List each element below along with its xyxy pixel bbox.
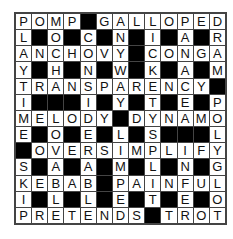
letter-cell[interactable]: L [81, 192, 96, 207]
letter-cell[interactable]: T [145, 192, 160, 207]
letter-cell[interactable]: A [113, 79, 128, 94]
letter-cell[interactable]: Y [97, 111, 112, 126]
letter-cell[interactable]: R [32, 208, 47, 223]
letter-cell[interactable]: A [178, 62, 193, 77]
letter-cell[interactable]: K [16, 176, 31, 191]
letter-cell[interactable]: C [145, 46, 160, 61]
letter-cell[interactable]: M [16, 111, 31, 126]
letter-cell[interactable]: E [81, 127, 96, 142]
letter-cell[interactable]: Y [194, 79, 209, 94]
letter-cell[interactable]: S [16, 159, 31, 174]
letter-cell[interactable]: L [210, 176, 225, 191]
letter-cell[interactable]: A [178, 30, 193, 45]
letter-cell[interactable]: I [178, 143, 193, 158]
letter-cell[interactable]: Y [210, 143, 225, 158]
letter-cell[interactable]: I [16, 192, 31, 207]
letter-cell[interactable]: R [81, 143, 96, 158]
letter-cell[interactable]: T [161, 208, 176, 223]
letter-cell[interactable]: I [145, 176, 160, 191]
letter-cell[interactable]: P [210, 95, 225, 110]
letter-cell[interactable]: E [178, 192, 193, 207]
letter-cell[interactable]: B [81, 176, 96, 191]
letter-cell[interactable]: N [161, 79, 176, 94]
letter-cell[interactable]: O [81, 46, 96, 61]
letter-cell[interactable]: C [81, 30, 96, 45]
letter-cell[interactable]: L [145, 14, 160, 29]
letter-cell[interactable]: N [161, 111, 176, 126]
letter-cell[interactable]: L [48, 111, 63, 126]
letter-cell[interactable]: W [113, 62, 128, 77]
letter-cell[interactable]: T [64, 208, 79, 223]
letter-cell[interactable]: P [145, 143, 160, 158]
letter-cell[interactable]: Y [113, 46, 128, 61]
letter-cell[interactable]: R [178, 208, 193, 223]
letter-cell[interactable]: O [32, 14, 47, 29]
letter-cell[interactable]: A [129, 176, 144, 191]
letter-cell[interactable]: A [48, 79, 63, 94]
letter-cell[interactable]: C [178, 79, 193, 94]
letter-cell[interactable]: A [64, 176, 79, 191]
letter-cell[interactable]: N [161, 176, 176, 191]
letter-cell[interactable]: O [210, 111, 225, 126]
letter-cell[interactable]: G [97, 14, 112, 29]
letter-cell[interactable]: N [178, 46, 193, 61]
letter-cell[interactable]: F [178, 176, 193, 191]
letter-cell[interactable]: E [145, 79, 160, 94]
letter-cell[interactable]: L [16, 30, 31, 45]
letter-cell[interactable]: L [48, 192, 63, 207]
letter-cell[interactable]: F [194, 143, 209, 158]
letter-cell[interactable]: I [81, 95, 96, 110]
letter-cell[interactable]: Y [145, 111, 160, 126]
letter-cell[interactable]: R [210, 30, 225, 45]
letter-cell[interactable]: N [113, 30, 128, 45]
letter-cell[interactable]: I [16, 95, 31, 110]
letter-cell[interactable]: T [145, 95, 160, 110]
letter-cell[interactable]: L [129, 14, 144, 29]
letter-cell[interactable]: S [97, 143, 112, 158]
letter-cell[interactable]: M [113, 159, 128, 174]
letter-cell[interactable]: A [113, 14, 128, 29]
letter-cell[interactable]: C [48, 46, 63, 61]
letter-cell[interactable]: M [129, 143, 144, 158]
letter-cell[interactable]: L [113, 127, 128, 142]
letter-cell[interactable]: N [32, 46, 47, 61]
letter-cell[interactable]: P [16, 208, 31, 223]
letter-cell[interactable]: I [145, 30, 160, 45]
letter-cell[interactable]: O [32, 143, 47, 158]
letter-cell[interactable]: S [129, 208, 144, 223]
letter-cell[interactable]: E [64, 143, 79, 158]
letter-cell[interactable]: L [161, 143, 176, 158]
letter-cell[interactable]: S [81, 79, 96, 94]
letter-cell[interactable]: M [210, 62, 225, 77]
letter-cell[interactable]: O [210, 192, 225, 207]
letter-cell[interactable]: O [194, 208, 209, 223]
letter-cell[interactable]: L [210, 127, 225, 142]
letter-cell[interactable]: P [97, 79, 112, 94]
letter-cell[interactable]: E [32, 111, 47, 126]
letter-cell[interactable]: E [194, 14, 209, 29]
letter-cell[interactable]: N [64, 79, 79, 94]
letter-cell[interactable]: H [48, 62, 63, 77]
letter-cell[interactable]: G [194, 46, 209, 61]
letter-cell[interactable]: D [129, 111, 144, 126]
letter-cell[interactable]: D [81, 111, 96, 126]
letter-cell[interactable]: M [48, 14, 63, 29]
letter-cell[interactable]: P [113, 176, 128, 191]
letter-cell[interactable]: N [81, 62, 96, 77]
letter-cell[interactable]: E [16, 127, 31, 142]
letter-cell[interactable]: O [48, 30, 63, 45]
letter-cell[interactable]: S [145, 127, 160, 142]
letter-cell[interactable]: P [16, 14, 31, 29]
letter-cell[interactable]: Y [16, 62, 31, 77]
letter-cell[interactable]: R [129, 79, 144, 94]
letter-cell[interactable]: T [16, 79, 31, 94]
letter-cell[interactable]: E [81, 208, 96, 223]
letter-cell[interactable]: B [48, 176, 63, 191]
letter-cell[interactable]: E [178, 95, 193, 110]
letter-cell[interactable]: A [210, 46, 225, 61]
letter-cell[interactable]: O [48, 127, 63, 142]
letter-cell[interactable]: D [113, 208, 128, 223]
letter-cell[interactable]: T [210, 208, 225, 223]
letter-cell[interactable]: D [210, 14, 225, 29]
letter-cell[interactable]: L [145, 159, 160, 174]
